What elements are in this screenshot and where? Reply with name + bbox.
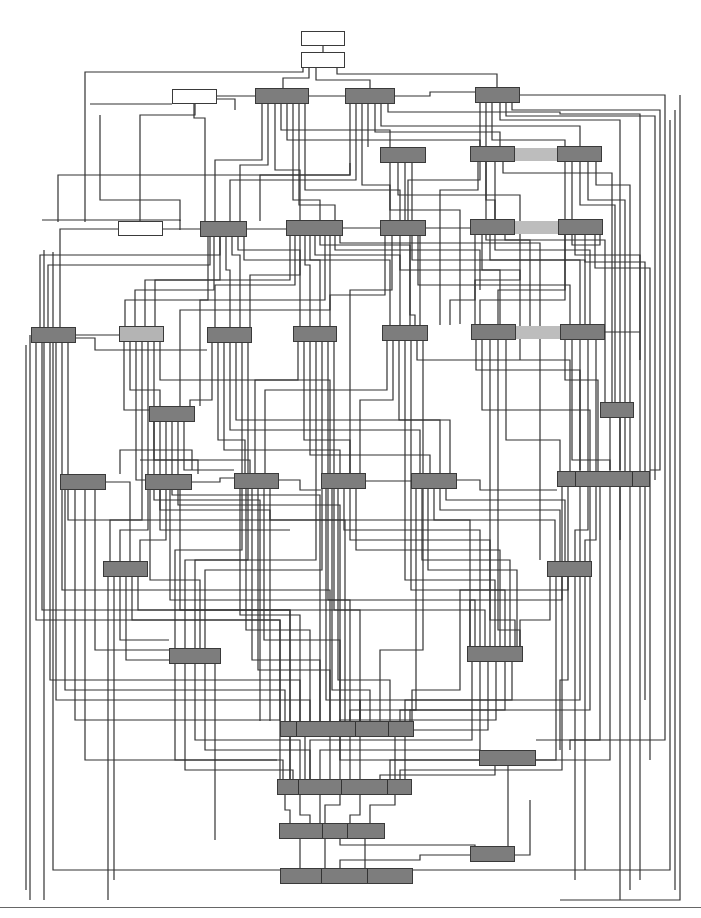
bridge-connector <box>515 221 558 234</box>
edge <box>118 104 195 229</box>
edge <box>265 341 387 473</box>
edge <box>56 343 310 721</box>
node-n33[interactable] <box>169 648 221 664</box>
edge <box>304 342 350 473</box>
edge <box>185 664 293 779</box>
node-n24[interactable] <box>600 402 634 418</box>
edge <box>283 68 309 88</box>
edge <box>595 235 650 760</box>
node-n25[interactable] <box>60 474 106 490</box>
edge <box>457 480 557 490</box>
edge <box>230 343 420 473</box>
node-n37[interactable] <box>277 779 412 795</box>
edge <box>340 855 470 868</box>
edge <box>226 237 230 327</box>
node-n28[interactable] <box>321 473 366 489</box>
edge <box>482 235 520 360</box>
node-n36[interactable] <box>479 750 536 766</box>
node-n21[interactable] <box>471 324 516 340</box>
edge <box>279 480 321 490</box>
node-n32[interactable] <box>547 561 592 577</box>
node-n27[interactable] <box>234 473 279 489</box>
edge <box>293 104 320 220</box>
edge <box>125 237 208 326</box>
node-n29[interactable] <box>411 473 457 489</box>
edge <box>350 795 360 823</box>
edge <box>400 489 416 721</box>
node-n7[interactable] <box>380 147 426 163</box>
node-n2[interactable] <box>301 52 345 68</box>
node-n23[interactable] <box>149 406 195 422</box>
edge <box>240 104 268 221</box>
edge <box>140 460 198 474</box>
node-n3[interactable] <box>172 89 217 104</box>
edge <box>340 839 475 846</box>
edge <box>136 342 145 480</box>
node-n31[interactable] <box>103 561 148 577</box>
node-segment-divider <box>558 472 633 486</box>
edge <box>192 478 234 482</box>
node-n35[interactable] <box>280 721 414 737</box>
edge <box>335 236 480 290</box>
node-n40[interactable] <box>280 868 413 884</box>
node-segment-divider <box>281 722 389 736</box>
node-n11[interactable] <box>200 221 247 237</box>
edge <box>305 236 310 326</box>
diagram-canvas <box>0 0 701 918</box>
node-n22[interactable] <box>560 324 605 340</box>
edge <box>175 664 283 779</box>
node-n19[interactable] <box>293 326 337 342</box>
node-n13[interactable] <box>380 220 426 236</box>
edge <box>370 795 395 823</box>
edge <box>326 489 360 721</box>
edge <box>120 450 192 474</box>
edge <box>140 422 166 561</box>
node-n6[interactable] <box>475 87 520 103</box>
node-n5[interactable] <box>345 88 395 104</box>
edge <box>255 342 298 473</box>
edge <box>316 68 370 88</box>
node-n18[interactable] <box>207 327 252 343</box>
edge <box>337 68 497 87</box>
node-n26[interactable] <box>145 474 192 490</box>
edge <box>520 95 665 740</box>
edge <box>287 104 480 146</box>
edge <box>145 237 220 326</box>
node-n9[interactable] <box>557 146 602 162</box>
node-n34[interactable] <box>467 646 523 662</box>
edge <box>120 577 169 640</box>
node-n1[interactable] <box>301 31 345 46</box>
node-n10[interactable] <box>118 221 163 236</box>
edge <box>238 237 300 326</box>
edge <box>520 577 550 646</box>
edge <box>450 235 475 325</box>
edge <box>395 92 475 96</box>
node-n12[interactable] <box>286 220 343 236</box>
node-n15[interactable] <box>558 219 603 235</box>
edge <box>350 236 392 480</box>
edge <box>60 229 118 327</box>
node-segment-divider <box>278 780 388 794</box>
node-n39[interactable] <box>470 846 515 862</box>
edge <box>48 236 210 329</box>
edge <box>380 766 495 779</box>
edge <box>422 489 510 646</box>
edge <box>399 341 450 473</box>
node-n20[interactable] <box>382 325 428 341</box>
node-n4[interactable] <box>255 88 309 104</box>
node-n30[interactable] <box>557 471 650 487</box>
node-n14[interactable] <box>470 219 515 235</box>
edge <box>236 343 440 473</box>
node-n8[interactable] <box>470 146 515 162</box>
bridge-connector <box>515 148 557 161</box>
node-n17[interactable] <box>119 326 164 342</box>
edge <box>285 795 290 823</box>
edge <box>218 343 245 473</box>
bottom-divider <box>0 907 701 908</box>
edge <box>486 162 530 330</box>
node-n16[interactable] <box>31 327 76 343</box>
edge <box>190 343 212 406</box>
edge <box>338 489 390 721</box>
edge <box>390 577 556 779</box>
node-n38[interactable] <box>279 823 385 839</box>
